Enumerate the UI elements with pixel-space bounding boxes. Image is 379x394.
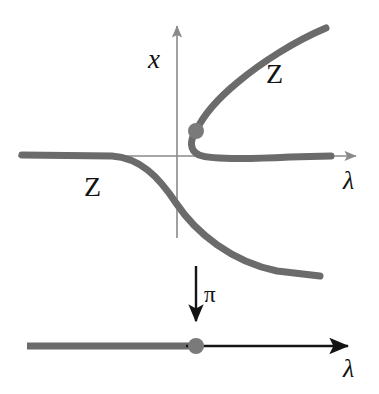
fold-return-branch-curve bbox=[191, 131, 331, 159]
upper-axes bbox=[18, 26, 356, 238]
lambda-axis-label: λ bbox=[343, 168, 354, 194]
fold-point-marker bbox=[188, 123, 204, 139]
x-axis-label: x bbox=[148, 46, 160, 73]
parameter-line-lambda-label: λ bbox=[343, 356, 354, 382]
branch-label-lower-z: Z bbox=[84, 173, 101, 201]
upper-branch-curve bbox=[196, 28, 326, 131]
left-descending-branch-curve bbox=[22, 155, 320, 276]
branch-label-upper-z: Z bbox=[266, 60, 283, 88]
parameter-line-group bbox=[27, 338, 348, 354]
projection-map-label-pi: π bbox=[204, 283, 216, 306]
projected-fold-point-marker bbox=[188, 338, 204, 354]
figure-root: x λ Z Z π λ bbox=[0, 0, 379, 394]
diagram-canvas bbox=[0, 0, 379, 394]
